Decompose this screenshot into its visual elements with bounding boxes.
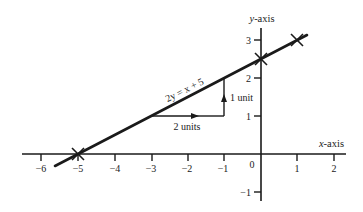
x-ticks bbox=[41, 154, 334, 161]
y-tick-label: 2 bbox=[246, 73, 251, 84]
run-label: 2 units bbox=[174, 121, 201, 132]
y-tick-label: −1 bbox=[240, 187, 251, 198]
x-tick-labels: −6 −5 −4 −3 −2 −1 1 2 bbox=[36, 163, 337, 174]
x-tick-label: −1 bbox=[218, 163, 229, 174]
y-axis-label: y-axis bbox=[248, 13, 274, 24]
x-tick-label: 1 bbox=[295, 163, 300, 174]
rise-label: 1 unit bbox=[230, 92, 253, 103]
coordinate-graph: −6 −5 −4 −3 −2 −1 1 2 0 3 2 1 −1 y-axis … bbox=[0, 0, 363, 212]
x-tick-label: −4 bbox=[110, 163, 121, 174]
x-axis-label: x-axis bbox=[318, 138, 344, 149]
y-tick-label: 3 bbox=[246, 35, 251, 46]
equation-line bbox=[55, 35, 307, 166]
x-tick-label: −6 bbox=[36, 163, 47, 174]
point-marker-1-3 bbox=[291, 34, 303, 46]
x-tick-label: −3 bbox=[146, 163, 157, 174]
origin-label: 0 bbox=[250, 159, 255, 170]
x-tick-label: −2 bbox=[182, 163, 193, 174]
y-tick-labels: 3 2 1 −1 bbox=[240, 35, 251, 198]
y-tick-label: 1 bbox=[246, 111, 251, 122]
x-tick-label: 2 bbox=[332, 163, 337, 174]
x-tick-label: −5 bbox=[73, 163, 84, 174]
